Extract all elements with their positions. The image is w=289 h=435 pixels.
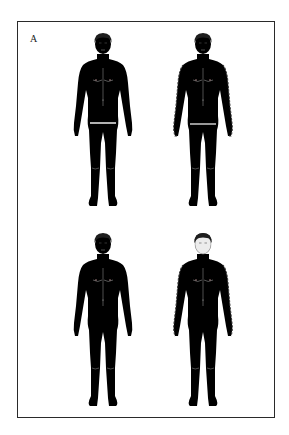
body-figure-top-right: .tr .skin{fill:#ececec;stroke:#9a9a9a;st… bbox=[163, 28, 243, 218]
panel-label: A bbox=[30, 33, 37, 44]
body-figure-bottom-left: .bl .skin{fill:#ededed;stroke:#9a9a9a;st… bbox=[63, 228, 143, 418]
body-figure-top-left: .tl .skin{fill:#ececec;stroke:#9a9a9a;st… bbox=[63, 28, 143, 218]
body-figure-bottom-right: .br .skin{fill:url(#shade);stroke:#777;s… bbox=[163, 228, 243, 418]
